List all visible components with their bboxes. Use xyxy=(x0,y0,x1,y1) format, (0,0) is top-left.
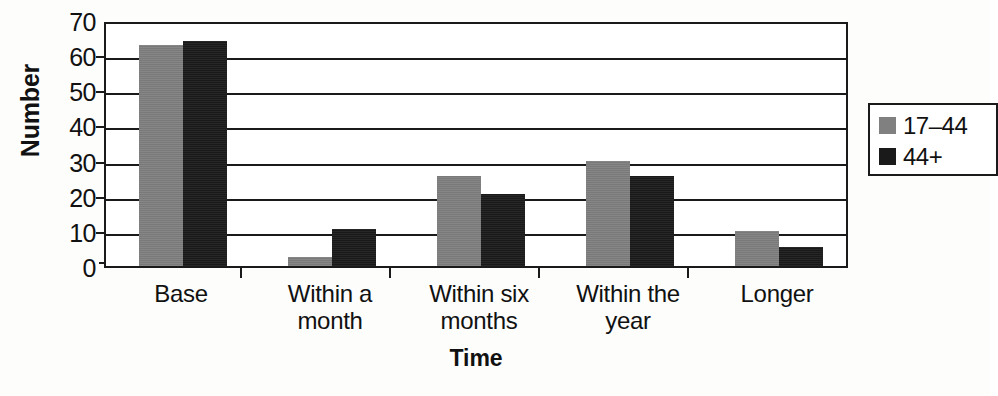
bar-0-1 xyxy=(288,257,332,266)
x-axis-tick-mark xyxy=(240,268,242,278)
x-axis-tick-mark xyxy=(687,268,689,278)
bar-1-2 xyxy=(481,194,525,266)
y-axis-tick-label: 30 xyxy=(48,150,96,175)
y-axis-tick-label: 50 xyxy=(48,80,96,105)
x-axis-tick-label: Longer xyxy=(697,281,857,308)
y-axis-tick-label: 40 xyxy=(48,115,96,140)
x-axis-tick-mark xyxy=(389,268,391,278)
x-axis-tick-labels: BaseWithin amonthWithin sixmonthsWithin … xyxy=(104,281,848,341)
y-axis-tick-label: 0 xyxy=(48,256,96,281)
bar-1-0 xyxy=(183,41,227,266)
x-axis-tick-label: Within theyear xyxy=(548,281,708,335)
bar-1-1 xyxy=(332,229,376,266)
legend-item: 17–44 xyxy=(879,110,996,141)
y-axis-tick-label: 70 xyxy=(48,10,96,35)
legend-label: 44+ xyxy=(903,145,942,169)
x-axis-tick-mark xyxy=(538,268,540,278)
legend-swatch-icon xyxy=(879,148,896,165)
legend-item: 44+ xyxy=(879,141,996,172)
y-axis-tick-label: 60 xyxy=(48,45,96,70)
bars-layer xyxy=(106,24,846,266)
bar-0-4 xyxy=(735,231,779,266)
plot-area xyxy=(104,22,848,268)
x-axis-tick-label: Within sixmonths xyxy=(399,281,559,335)
bar-0-2 xyxy=(437,176,481,266)
y-axis-tick-labels: 010203040506070 xyxy=(48,0,96,396)
legend: 17–4444+ xyxy=(868,103,998,176)
bar-1-3 xyxy=(630,176,674,266)
bar-0-3 xyxy=(586,161,630,266)
x-axis-title: Time xyxy=(104,345,848,372)
x-axis-tick-label: Within amonth xyxy=(250,281,410,335)
legend-swatch-icon xyxy=(879,117,896,134)
y-axis-tick-label: 20 xyxy=(48,185,96,210)
bar-1-4 xyxy=(779,247,823,266)
y-axis-title: Number xyxy=(16,55,45,167)
legend-label: 17–44 xyxy=(903,114,967,138)
x-axis-tick-label: Base xyxy=(101,281,261,308)
y-axis-tick-label: 10 xyxy=(48,220,96,245)
bar-0-0 xyxy=(139,45,183,266)
